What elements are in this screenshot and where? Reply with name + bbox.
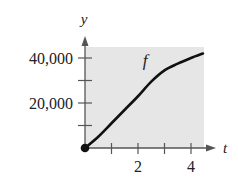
y-axis-arrow-icon — [82, 36, 89, 46]
y-axis-label: y — [79, 11, 88, 27]
x-tick-label: 4 — [187, 158, 195, 175]
start-point — [81, 144, 90, 153]
chart: 2420,00040,000 y t f — [0, 0, 238, 189]
x-axis-label: t — [223, 140, 228, 156]
x-axis-arrow-icon — [206, 145, 216, 152]
y-tick-label: 20,000 — [29, 95, 73, 112]
x-tick-label: 2 — [134, 158, 142, 175]
y-tick-label: 40,000 — [29, 50, 73, 67]
